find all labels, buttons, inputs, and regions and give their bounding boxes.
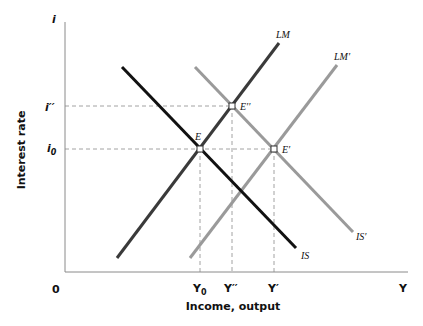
point-e-label: E <box>194 131 201 142</box>
is-label: IS <box>300 250 309 261</box>
is-prime-label: IS′ <box>355 231 367 242</box>
x-axis-symbol: Y <box>398 282 408 295</box>
x-tick-y-prime: Y′ <box>267 282 279 295</box>
y-tick-i0: i0 <box>47 142 57 157</box>
x-axis-title: Income, output <box>186 300 281 313</box>
is-lm-diagram: LM LM′ IS′ IS E E′′ E′ i i′′ i0 Interest… <box>0 0 423 326</box>
y-axis-title: Interest rate <box>15 111 28 190</box>
x-tick-y-double-prime: Y′′ <box>223 282 238 295</box>
point-e-prime-marker <box>271 146 277 152</box>
is-curve <box>122 67 296 248</box>
lm-prime-label: LM′ <box>333 51 351 62</box>
y-tick-i-double-prime: i′′ <box>45 101 55 114</box>
lm-label: LM <box>275 29 291 40</box>
point-e-double-prime-label: E′′ <box>239 101 251 112</box>
y-axis-symbol: i <box>52 13 56 26</box>
point-e-prime-label: E′ <box>281 144 291 155</box>
point-e-double-prime-marker <box>229 103 235 109</box>
x-tick-y0: Y0 <box>192 282 207 297</box>
origin-label: 0 <box>52 283 60 296</box>
point-e-marker <box>197 146 203 152</box>
